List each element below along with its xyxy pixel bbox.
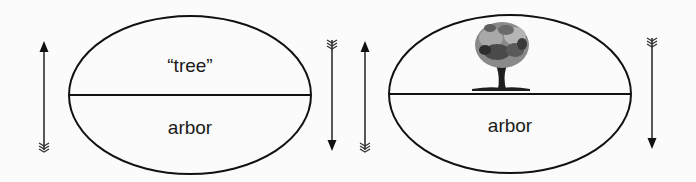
signifier-label: arbor bbox=[168, 117, 213, 138]
sign-left: “tree” arbor bbox=[69, 16, 311, 174]
diagram-canvas: “tree” arbor arbor bbox=[0, 0, 696, 182]
arrow-down-icon bbox=[647, 38, 657, 149]
arrow-down-icon bbox=[327, 40, 337, 151]
signifier-label: arbor bbox=[488, 115, 533, 136]
arrow-up-icon bbox=[39, 41, 49, 152]
tree-icon bbox=[472, 22, 530, 91]
sign-right: arbor bbox=[389, 15, 631, 173]
arrow-up-icon bbox=[360, 41, 370, 152]
signified-label: “tree” bbox=[167, 55, 212, 76]
